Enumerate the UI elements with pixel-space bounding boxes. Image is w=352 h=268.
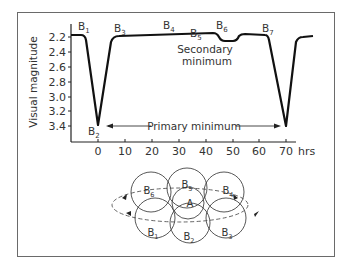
y-axis: 2.2 2.4 2.6 2.8 3.0 3.2 3.4 Visual magni… [27,24,71,142]
orbit-label-b5: B5 [181,179,192,193]
y-tick-label: 3.0 [49,91,67,104]
secondary-minimum-line2: minimum [182,55,232,67]
orbit-label-b3: B3 [221,227,232,241]
x-tick-label: 20 [145,145,159,158]
label-b3: B3 [114,22,126,37]
x-tick-label: 50 [226,145,240,158]
x-tick-label: 60 [252,145,266,158]
orbit-label-a: A [187,198,194,209]
x-tick-label: 70 [279,145,293,158]
light-curve-figure: 2.2 2.4 2.6 2.8 3.0 3.2 3.4 Visual magni… [0,0,352,268]
circle-b1 [135,198,175,238]
arrow-left-icon [106,124,113,129]
arrow-right-icon [274,124,281,129]
orbit-label-b1: B1 [147,227,158,241]
y-tick-label: 3.2 [49,105,67,118]
x-tick-label: 0 [95,145,102,158]
x-axis-unit: hrs [298,145,315,158]
primary-minimum-label: Primary minimum [147,120,241,132]
y-tick-label: 2.6 [49,61,67,74]
orbit-label-b6: B6 [143,185,154,199]
y-tick-label: 3.4 [49,120,67,133]
orbit-arrow-left-icon [122,194,127,200]
label-b2: B2 [88,125,100,140]
secondary-minimum-annotation: Secondary minimum [177,43,233,67]
orbit-label-b4: B4 [222,185,233,199]
x-tick-label: 40 [199,145,213,158]
x-tick-label: 30 [172,145,186,158]
secondary-minimum-line1: Secondary [177,43,233,55]
y-tick-label: 2.4 [49,46,67,59]
label-b6: B6 [216,19,228,34]
x-axis: 0 10 20 30 40 50 60 70 hrs [71,139,315,158]
label-b1: B1 [78,20,90,35]
y-axis-title: Visual magnitude [27,36,39,127]
y-tick-label: 2.8 [49,76,67,89]
primary-minimum-annotation: Primary minimum [106,120,281,132]
y-tick-label: 2.2 [49,31,67,44]
label-b4: B4 [163,19,175,34]
x-tick-label: 10 [118,145,132,158]
label-b5: B5 [190,27,202,42]
